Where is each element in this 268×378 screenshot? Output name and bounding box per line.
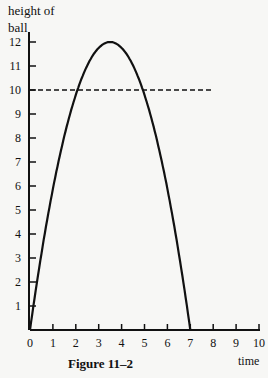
x-tick-label: 2	[73, 336, 79, 350]
y-tick-label: 8	[15, 131, 21, 145]
x-tick-label: 0	[27, 336, 33, 350]
x-tick-label: 9	[233, 336, 239, 350]
x-tick-label: 7	[187, 336, 193, 350]
y-tick-label: 9	[15, 107, 21, 121]
ball-height-curve	[30, 42, 190, 330]
x-tick-label: 6	[164, 336, 170, 350]
x-tick-label: 8	[210, 336, 216, 350]
y-tick-label: 1	[15, 299, 21, 313]
y-tick-label: 6	[15, 179, 21, 193]
y-tick-label: 11	[9, 59, 21, 73]
x-tick-label: 1	[50, 336, 56, 350]
chart-plot: 012345678910123456789101112	[0, 0, 268, 378]
y-tick-label: 7	[15, 155, 21, 169]
y-tick-label: 4	[15, 227, 21, 241]
y-tick-label: 3	[15, 251, 21, 265]
y-tick-label: 12	[9, 35, 21, 49]
y-tick-label: 2	[15, 275, 21, 289]
figure-caption: Figure 11–2	[68, 356, 133, 372]
x-tick-label: 5	[142, 336, 148, 350]
x-tick-label: 10	[253, 336, 265, 350]
x-axis-label: time	[238, 354, 259, 369]
y-tick-label: 10	[9, 83, 21, 97]
x-tick-label: 3	[96, 336, 102, 350]
y-tick-label: 5	[15, 203, 21, 217]
x-tick-label: 4	[119, 336, 125, 350]
